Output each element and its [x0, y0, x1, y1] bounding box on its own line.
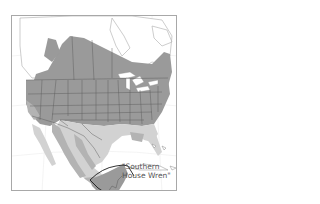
label-line-1: "Southern — [122, 162, 178, 171]
southern-house-wren-label: "Southern House Wren" — [122, 162, 178, 180]
label-line-2: House Wren" — [122, 171, 178, 180]
